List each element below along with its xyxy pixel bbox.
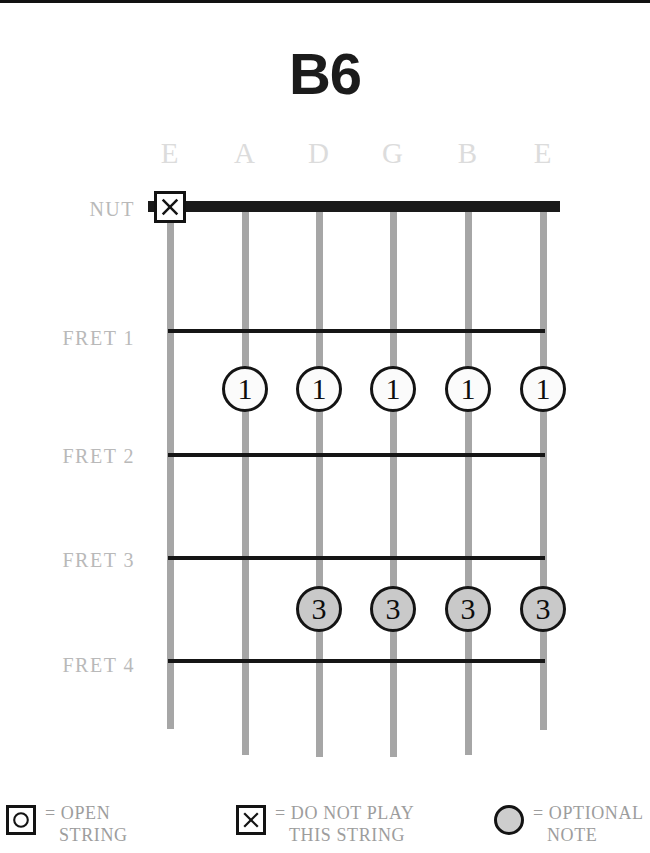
legend-open-string-text: = OPEN STRING [45, 803, 128, 847]
open-string-icon [6, 805, 36, 835]
row-label-nut: NUT [0, 199, 135, 219]
mute-marker-string-1 [154, 191, 186, 223]
string-line-1 [167, 201, 174, 729]
fret-line-1 [168, 329, 545, 333]
string-line-2 [242, 201, 249, 755]
optional-note-marker-string-3: 3 [296, 586, 342, 632]
finger-marker-string-3: 1 [296, 366, 342, 412]
string-name-6: E [523, 139, 563, 168]
optional-note-marker-string-6: 3 [520, 586, 566, 632]
legend-do-not-play-text: = DO NOT PLAY THIS STRING [275, 803, 414, 847]
string-name-5: B [448, 139, 488, 168]
legend-item-optional-note: = OPTIONAL NOTE [494, 803, 644, 847]
row-label-fret-2: FRET 2 [0, 446, 135, 466]
page-title: B6 [0, 45, 650, 103]
mute-string-icon [236, 805, 266, 835]
string-name-1: E [150, 139, 190, 168]
optional-note-marker-string-5: 3 [445, 586, 491, 632]
legend: = OPEN STRING = DO NOT PLAY THIS STRING … [0, 803, 650, 853]
legend-optional-note-text: = OPTIONAL NOTE [533, 803, 644, 847]
row-label-fret-4: FRET 4 [0, 655, 135, 675]
string-line-6 [540, 201, 547, 730]
row-label-fret-3: FRET 3 [0, 550, 135, 570]
nut-bar [148, 201, 560, 212]
string-line-3 [316, 201, 323, 757]
string-name-3: D [299, 139, 339, 168]
chord-chart-page: B6 EADGBE NUTFRET 1FRET 2FRET 3FRET 4111… [0, 0, 650, 853]
row-label-fret-1: FRET 1 [0, 328, 135, 348]
legend-item-do-not-play: = DO NOT PLAY THIS STRING [236, 803, 414, 847]
string-line-4 [390, 201, 397, 757]
legend-item-open-string: = OPEN STRING [6, 803, 128, 847]
string-line-5 [465, 201, 472, 755]
finger-marker-string-2: 1 [222, 366, 268, 412]
optional-note-marker-string-4: 3 [370, 586, 416, 632]
fret-line-2 [168, 453, 545, 457]
fret-line-3 [168, 556, 545, 560]
string-name-4: G [373, 139, 413, 168]
optional-note-icon [494, 805, 524, 835]
fret-line-4 [168, 659, 545, 663]
finger-marker-string-6: 1 [520, 366, 566, 412]
string-name-2: A [225, 139, 265, 168]
finger-marker-string-4: 1 [370, 366, 416, 412]
finger-marker-string-5: 1 [445, 366, 491, 412]
